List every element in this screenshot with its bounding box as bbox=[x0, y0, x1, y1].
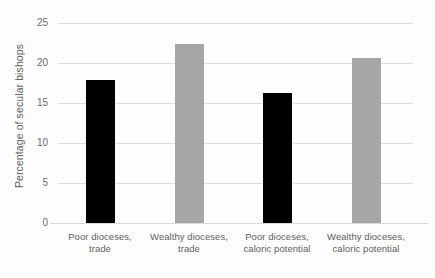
y-tick-label-10: 10 bbox=[26, 138, 48, 148]
x-tick-label-poor-caloric: Poor dioceses, caloric potential bbox=[233, 231, 321, 255]
y-tick-label-20: 20 bbox=[26, 58, 48, 68]
y-tick-label-5: 5 bbox=[26, 178, 48, 188]
y-tick-label-0: 0 bbox=[26, 218, 48, 228]
x-tick-label-wealthy-caloric: Wealthy dioceses, caloric potential bbox=[322, 231, 410, 255]
plot-area bbox=[58, 23, 413, 223]
bar-wealthy-dioceses-caloric-potential[interactable] bbox=[352, 58, 381, 223]
bar-chart: Percentage of secular bishops 25 20 15 1… bbox=[0, 0, 435, 278]
bar-poor-dioceses-trade[interactable] bbox=[86, 80, 115, 223]
bar-wealthy-dioceses-trade[interactable] bbox=[175, 44, 204, 223]
y-axis-title: Percentage of secular bishops bbox=[11, 11, 27, 221]
x-axis-line bbox=[50, 223, 428, 224]
y-tick-label-25: 25 bbox=[26, 18, 48, 28]
x-tick-label-wealthy-trade: Wealthy dioceses, trade bbox=[145, 231, 233, 255]
bar-poor-dioceses-caloric-potential[interactable] bbox=[263, 93, 292, 223]
gridline-25 bbox=[58, 23, 413, 24]
x-tick-label-poor-trade: Poor dioceses, trade bbox=[56, 231, 144, 255]
y-tick-label-15: 15 bbox=[26, 98, 48, 108]
